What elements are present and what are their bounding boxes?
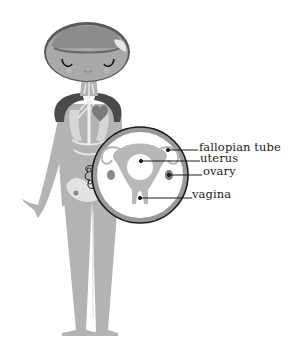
anatomy-figure <box>0 0 296 350</box>
label-uterus: uterus <box>200 153 238 165</box>
head <box>44 22 130 82</box>
legs <box>62 200 118 336</box>
label-ovary: ovary <box>203 166 236 178</box>
label-vagina: vagina <box>192 189 231 201</box>
ovary-left <box>107 170 115 180</box>
